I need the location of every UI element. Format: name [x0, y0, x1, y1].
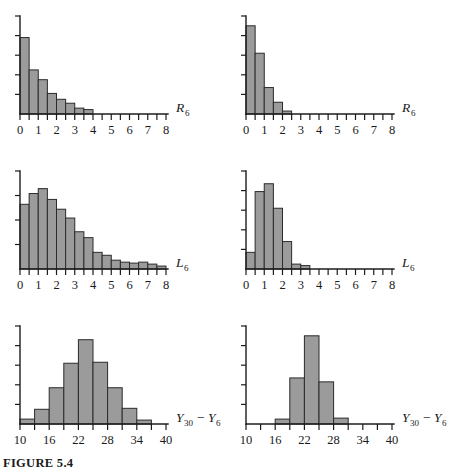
x-axis-tick-label: 2 [53, 278, 59, 292]
bar-series [20, 38, 93, 114]
histogram-bar [49, 388, 64, 424]
histogram-bar [29, 70, 38, 114]
x-axis-tick-label: 6 [352, 278, 358, 292]
x-axis-tick-label: 0 [243, 278, 249, 292]
histogram-panel-top-right: 012345678R6 [226, 0, 451, 155]
histogram-panel-middle-left: 012345678L6 [0, 155, 225, 310]
x-axis-tick-label: 40 [160, 433, 173, 447]
histogram-bar [139, 262, 148, 269]
histogram-panel-top-left: 012345678R6 [0, 0, 225, 155]
histogram-bar [290, 378, 305, 424]
histogram-bar [120, 262, 129, 269]
svg-text:−: − [197, 410, 205, 425]
histogram-bar [38, 80, 47, 114]
x-axis-tick-label: 10 [14, 433, 27, 447]
svg-text:L: L [175, 255, 184, 270]
histogram-bar [255, 192, 264, 269]
x-axis-variable-label: L6 [401, 255, 415, 273]
histogram-bar [304, 336, 319, 424]
bar-series [246, 26, 292, 114]
x-axis-tick-label: 7 [371, 278, 377, 292]
figure-5-4: 012345678R6012345678R6012345678L60123456… [0, 0, 451, 475]
x-axis-tick-label: 16 [269, 433, 282, 447]
x-axis-variable-label: L6 [175, 255, 189, 273]
histogram-panel-bottom-right: 101622283440Y30−Y6 [226, 310, 451, 465]
x-axis-tick-label: 16 [43, 433, 56, 447]
histogram-bar [57, 99, 66, 114]
x-axis-tick-label: 3 [298, 278, 304, 292]
figure-caption: FIGURE 5.4 [3, 456, 73, 471]
histogram-bar [20, 204, 29, 269]
histogram-bar [64, 363, 79, 424]
svg-text:R: R [175, 100, 185, 115]
bar-series [20, 340, 151, 424]
svg-text:6: 6 [411, 108, 416, 118]
histogram-bar [246, 26, 255, 114]
histogram-bar [275, 419, 290, 424]
bar-series [275, 336, 348, 424]
x-axis-tick-label: 5 [108, 123, 114, 137]
bar-series [246, 184, 310, 269]
svg-text:6: 6 [442, 418, 447, 428]
svg-text:6: 6 [185, 108, 190, 118]
x-axis-tick-label: 4 [316, 278, 323, 292]
x-axis-tick-label: 7 [145, 123, 151, 137]
x-axis-tick-label: 0 [243, 123, 249, 137]
svg-text:30: 30 [410, 418, 420, 428]
x-axis-variable-label: Y30−Y6 [176, 410, 221, 428]
histogram-bar [130, 263, 139, 269]
bar-series [20, 189, 166, 269]
x-axis-tick-label: 0 [17, 123, 23, 137]
histogram-panel-bottom-left: 101622283440Y30−Y6 [0, 310, 225, 465]
histogram-bar [111, 260, 120, 269]
x-axis-tick-label: 34 [131, 433, 144, 447]
x-axis-tick-label: 2 [53, 123, 59, 137]
x-axis-variable-label: Y30−Y6 [402, 410, 447, 428]
histogram-bar [122, 408, 137, 424]
x-axis-tick-label: 3 [72, 123, 78, 137]
x-axis-variable-label: R6 [401, 100, 416, 118]
svg-text:6: 6 [184, 263, 189, 273]
x-axis-tick-label: 1 [35, 278, 41, 292]
svg-text:R: R [401, 100, 411, 115]
x-axis-tick-label: 6 [352, 123, 358, 137]
histogram-bar [75, 108, 84, 114]
x-axis-tick-label: 5 [108, 278, 114, 292]
histogram-bar [264, 88, 273, 114]
histogram-bar [102, 255, 111, 269]
histogram-bar [255, 53, 264, 114]
histogram-bar [93, 362, 108, 424]
x-axis-tick-label: 2 [279, 278, 285, 292]
x-axis-tick-label: 40 [386, 433, 399, 447]
histogram-bar [29, 194, 38, 269]
histogram-bar [273, 102, 282, 114]
histogram-bar [47, 199, 56, 269]
x-axis-tick-label: 34 [357, 433, 370, 447]
svg-text:−: − [423, 410, 431, 425]
x-axis-tick-label: 1 [35, 123, 41, 137]
x-axis-tick-label: 1 [261, 123, 267, 137]
x-axis-tick-label: 4 [90, 278, 97, 292]
x-axis-tick-label: 22 [72, 433, 85, 447]
histogram-bar [20, 419, 35, 424]
x-axis-tick-label: 8 [389, 123, 395, 137]
x-axis-tick-label: 22 [298, 433, 311, 447]
histogram-bar [20, 38, 29, 114]
histogram-bar [148, 264, 157, 269]
histogram-bar [35, 409, 50, 424]
x-axis-variable-label: R6 [175, 100, 190, 118]
x-axis-tick-label: 3 [72, 278, 78, 292]
x-axis-tick-label: 7 [145, 278, 151, 292]
svg-text:30: 30 [184, 418, 194, 428]
x-axis-tick-label: 4 [90, 123, 97, 137]
histogram-bar [292, 264, 301, 269]
histogram-bar [78, 340, 93, 424]
x-axis-tick-label: 8 [389, 278, 395, 292]
histogram-bar [47, 93, 56, 114]
x-axis-tick-label: 6 [126, 278, 132, 292]
histogram-bar [57, 209, 66, 269]
x-axis-tick-label: 10 [240, 433, 253, 447]
x-axis-tick-label: 1 [261, 278, 267, 292]
x-axis-tick-label: 8 [163, 278, 169, 292]
x-axis-tick-label: 8 [163, 123, 169, 137]
